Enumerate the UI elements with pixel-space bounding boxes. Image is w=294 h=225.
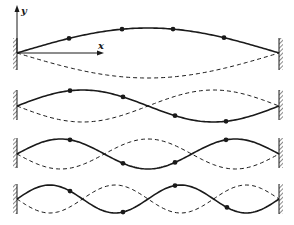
particle-dot — [67, 36, 72, 41]
left-wall-icon — [13, 38, 17, 70]
particle-dot — [173, 183, 178, 188]
coordinate-axes: y x — [15, 5, 106, 56]
standing-waves-diagram: y x — [0, 0, 294, 225]
particle-dot — [120, 27, 125, 32]
x-axis-arrowhead-icon — [97, 51, 104, 56]
particle-dot — [121, 95, 126, 100]
mode-3 — [13, 137, 283, 169]
dashed-displacement-curve — [17, 139, 279, 169]
x-axis-label: x — [97, 40, 105, 51]
y-axis-arrowhead-icon — [15, 5, 20, 12]
right-wall-icon — [279, 184, 283, 214]
right-wall-icon — [279, 138, 283, 168]
particle-dot — [171, 27, 176, 32]
particle-dot — [68, 137, 73, 142]
particle-dot — [68, 189, 73, 194]
mode-2 — [13, 88, 283, 123]
particle-dot — [224, 119, 229, 124]
wave-modes — [13, 27, 283, 215]
particle-dot — [121, 161, 126, 166]
particle-dot — [224, 137, 229, 142]
particle-dot — [121, 210, 126, 215]
solid-displacement-curve — [17, 90, 279, 122]
right-wall-icon — [279, 38, 283, 70]
left-wall-icon — [13, 138, 17, 168]
particle-dot — [68, 88, 73, 93]
mode-1 — [13, 27, 283, 78]
particle-dot — [173, 113, 178, 118]
left-wall-icon — [13, 184, 17, 214]
solid-displacement-curve — [17, 185, 279, 213]
solid-displacement-curve — [17, 139, 279, 169]
left-wall-icon — [13, 90, 17, 120]
particle-dot — [222, 35, 227, 40]
mode-4 — [13, 183, 283, 214]
dashed-displacement-curve — [17, 53, 279, 78]
right-wall-icon — [279, 90, 283, 120]
particle-dot — [225, 205, 230, 210]
particle-dot — [173, 160, 178, 165]
solid-displacement-curve — [17, 28, 279, 53]
y-axis-label: y — [20, 5, 28, 16]
